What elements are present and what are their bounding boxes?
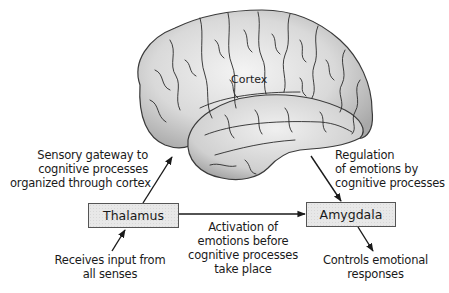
arrow-amygdala-to-responses	[358, 227, 373, 251]
annotation-line: cognitive processes	[10, 162, 148, 176]
controls-annotation: Controls emotional responses	[318, 253, 433, 281]
sensory-gateway-annotation: Sensory gateway to cognitive processes o…	[10, 148, 148, 190]
thalamus-label: Thalamus	[103, 208, 164, 223]
annotation-line: Sensory gateway to	[10, 148, 148, 162]
brain-emotion-diagram: Cortex Thalamus Amygdala Sensory gateway…	[0, 0, 449, 293]
annotation-line: Regulation	[335, 148, 447, 162]
annotation-line: responses	[318, 267, 433, 281]
annotation-line: take place	[178, 262, 308, 276]
annotation-line: Activation of	[178, 220, 308, 234]
annotation-line: all senses	[50, 267, 170, 281]
receives-input-annotation: Receives input from all senses	[50, 253, 170, 281]
annotation-line: Controls emotional	[318, 253, 433, 267]
thalamus-node: Thalamus	[88, 203, 179, 228]
amygdala-label: Amygdala	[320, 207, 383, 222]
arrow-senses-to-thalamus	[112, 230, 125, 251]
amygdala-node: Amygdala	[306, 202, 396, 227]
annotation-line: emotions before	[178, 234, 308, 248]
activation-annotation: Activation of emotions before cognitive …	[178, 220, 308, 276]
annotation-line: of emotions by	[335, 162, 447, 176]
cortex-label: Cortex	[231, 73, 267, 86]
annotation-line: cognitive processes	[178, 248, 308, 262]
annotation-line: organized through cortex	[10, 176, 148, 190]
annotation-line: cognitive processes	[335, 176, 447, 190]
regulation-annotation: Regulation of emotions by cognitive proc…	[335, 148, 447, 190]
annotation-line: Receives input from	[50, 253, 170, 267]
